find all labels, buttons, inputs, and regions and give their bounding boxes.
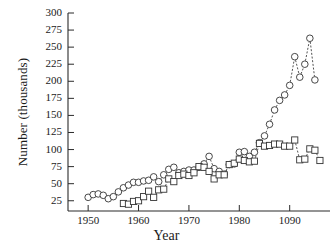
data-point-square: [206, 168, 212, 174]
chart-figure: Number (thousands) Year 2550751001251501…: [0, 0, 333, 248]
data-point-circle: [206, 153, 213, 160]
series-connector-segment: [262, 139, 263, 140]
y-tick-label: 50: [20, 177, 62, 189]
y-tick-label: 125: [20, 125, 62, 137]
series-connector-segment: [266, 128, 268, 133]
series-connector-segment: [210, 160, 212, 166]
axis-lines: [68, 13, 330, 211]
data-point-square: [312, 147, 318, 153]
y-tick-label: 225: [20, 57, 62, 69]
data-point-square: [151, 194, 157, 200]
data-point-square: [161, 186, 167, 192]
data-point-square: [287, 143, 293, 149]
y-tick-label: 25: [20, 194, 62, 206]
data-point-circle: [251, 149, 258, 156]
x-tick-label: 1090: [265, 214, 315, 226]
data-point-circle: [296, 74, 303, 81]
data-point-square: [251, 158, 257, 164]
y-axis-ticks: [68, 13, 74, 201]
x-tick-label: 1980: [214, 214, 264, 226]
series-connector-segment: [286, 89, 288, 92]
data-point-circle: [286, 82, 293, 89]
y-tick-label: 75: [20, 160, 62, 172]
x-tick-label: 1960: [114, 214, 164, 226]
data-point-circle: [171, 164, 178, 171]
data-point-square: [191, 170, 197, 176]
series-connector-segment: [306, 152, 308, 156]
y-tick-label: 300: [20, 6, 62, 18]
series-connector-segment: [161, 178, 162, 179]
y-tick-label: 200: [20, 74, 62, 86]
data-point-circle: [302, 61, 309, 68]
data-point-circle: [307, 35, 314, 42]
y-tick-label: 100: [20, 143, 62, 155]
data-point-circle: [312, 77, 319, 84]
series-connector-segment: [165, 182, 167, 186]
data-point-circle: [291, 53, 298, 60]
x-axis-label: Year: [0, 228, 333, 244]
data-point-circle: [271, 107, 278, 114]
series-connector-segment: [296, 143, 299, 156]
data-point-circle: [266, 121, 273, 128]
series-connector-segment: [271, 113, 274, 121]
y-tick-label: 175: [20, 91, 62, 103]
data-point-circle: [155, 178, 162, 185]
series-connector-segment: [301, 68, 303, 74]
y-tick-label: 150: [20, 108, 62, 120]
y-tick-label: 250: [20, 40, 62, 52]
series-markers: [85, 35, 323, 207]
series-connector-segment: [316, 153, 318, 157]
series-connector-segment: [290, 60, 294, 82]
data-point-circle: [261, 133, 268, 140]
data-point-square: [171, 179, 177, 185]
data-point-square: [317, 157, 323, 163]
data-point-square: [302, 156, 308, 162]
data-point-square: [221, 172, 227, 178]
chart-canvas: [0, 0, 333, 248]
series-connector-segment: [305, 42, 309, 61]
data-point-circle: [281, 92, 288, 99]
x-tick-label: 1970: [164, 214, 214, 226]
data-point-square: [146, 188, 152, 194]
series-connector-segment: [310, 42, 314, 76]
series-connector-segment: [296, 60, 299, 73]
data-point-circle: [276, 97, 283, 104]
series-connector-segment: [276, 104, 278, 107]
x-axis-ticks: [88, 205, 290, 211]
series-connector-segment: [206, 159, 207, 161]
x-tick-label: 1950: [63, 214, 113, 226]
data-point-square: [292, 137, 298, 143]
y-tick-label: 275: [20, 23, 62, 35]
